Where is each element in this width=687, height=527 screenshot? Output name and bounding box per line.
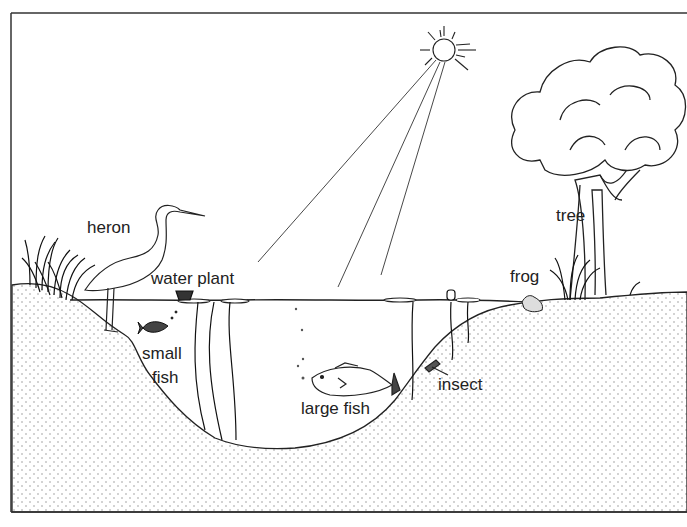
label-small-fish-line2: fish (152, 369, 178, 386)
label-heron: heron (87, 219, 130, 236)
frog-icon (522, 296, 543, 312)
label-large-fish: large fish (301, 400, 370, 417)
tree (512, 47, 686, 300)
sun-icon (420, 26, 476, 70)
small-fish-icon (138, 311, 177, 334)
label-small-fish-line1: small (142, 345, 182, 362)
soil (12, 284, 687, 512)
label-frog: frog (510, 268, 539, 285)
pond-water (70, 298, 530, 303)
label-water-plant: water plant (151, 270, 234, 287)
bubbles (295, 308, 305, 380)
label-tree: tree (556, 207, 585, 224)
diagram-canvas (0, 0, 687, 527)
pond-ecosystem-diagram: heron water plant small fish large fish … (0, 0, 687, 527)
sunlight-rays (258, 60, 445, 287)
label-insect: insect (438, 376, 482, 393)
large-fish-icon (312, 363, 400, 396)
